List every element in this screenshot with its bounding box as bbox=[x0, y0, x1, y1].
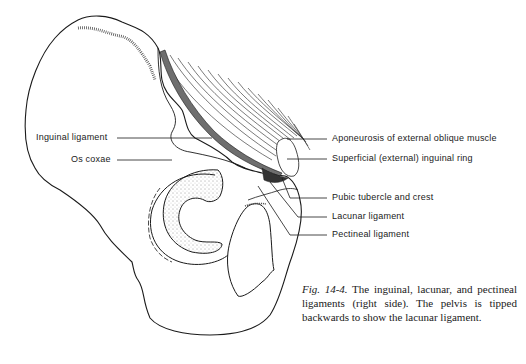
figure-number: Fig. 14-4. bbox=[302, 283, 348, 295]
os-coxae-outline bbox=[25, 16, 301, 335]
label-lacunar-ligament: Lacunar ligament bbox=[332, 211, 404, 221]
label-aponeurosis: Aponeurosis of external oblique muscle bbox=[332, 133, 497, 143]
label-pubic-tubercle: Pubic tubercle and crest bbox=[332, 192, 433, 202]
label-inguinal-ligament: Inguinal ligament bbox=[36, 132, 107, 142]
figure-caption: Fig. 14-4. The inguinal, lacunar, and pe… bbox=[302, 282, 517, 325]
label-superficial-ring: Superficial (external) inguinal ring bbox=[332, 153, 473, 163]
label-os-coxae: Os coxae bbox=[71, 154, 111, 164]
superficial-ring bbox=[277, 138, 299, 176]
label-pectineal-ligament: Pectineal ligament bbox=[332, 229, 409, 239]
anatomical-figure: Inguinal ligament Os coxae Aponeurosis o… bbox=[0, 0, 526, 364]
